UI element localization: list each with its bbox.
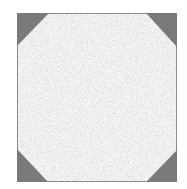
square-body [17, 13, 177, 182]
square-figure [0, 0, 187, 189]
